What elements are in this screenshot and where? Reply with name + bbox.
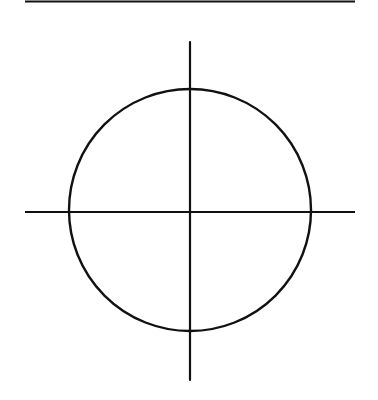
diagram-canvas <box>0 0 378 400</box>
circle-axes-diagram <box>0 0 378 400</box>
